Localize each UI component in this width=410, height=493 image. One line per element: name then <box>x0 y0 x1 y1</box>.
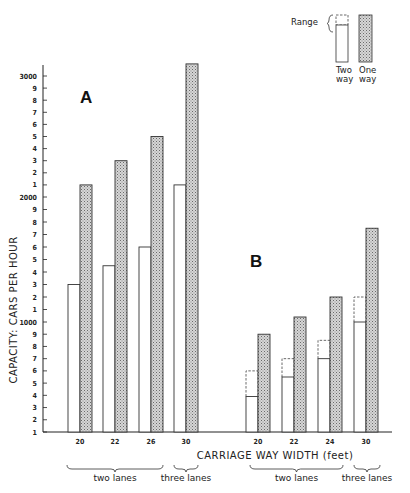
y-tick-label: 3 <box>33 404 37 412</box>
group-bracket <box>174 465 198 472</box>
y-tick-label: 5 <box>33 133 37 141</box>
bar-two-way-range <box>282 359 294 377</box>
y-tick-label: 1 <box>33 181 37 189</box>
legend-range-label: Range <box>291 17 318 27</box>
y-tick-label: 6 <box>33 244 38 252</box>
y-tick-label: 4 <box>33 145 38 153</box>
y-tick-label: 5 <box>33 380 37 388</box>
bar-two-way <box>174 185 186 432</box>
x-tick-label: 30 <box>182 438 191 446</box>
y-tick-label: 7 <box>33 355 37 363</box>
x-tick-label: 26 <box>147 438 156 446</box>
bar-one-way <box>258 334 270 432</box>
chart-panels: A20222630two lanesthree lanesB20222430tw… <box>67 64 393 483</box>
bar-one-way <box>151 137 163 433</box>
bar-two-way <box>282 377 294 432</box>
y-tick-label: 6 <box>33 121 38 129</box>
x-tick-label: 22 <box>290 438 299 446</box>
bar-one-way <box>115 161 127 432</box>
y-tick-label: 4 <box>33 392 38 400</box>
x-tick-label: 20 <box>76 438 85 446</box>
y-tick-label: 1 <box>33 429 37 437</box>
y-tick-label: 7 <box>33 109 37 117</box>
panel-b: B20222430two lanesthree lanes <box>246 228 393 483</box>
x-tick-label: 30 <box>362 438 371 446</box>
bar-two-way <box>103 266 115 432</box>
bar-one-way <box>80 185 92 432</box>
y-tick-label: 2000 <box>19 194 37 202</box>
y-tick-label: 2 <box>33 169 37 177</box>
group-label: two lanes <box>275 473 319 483</box>
bar-two-way-range <box>354 297 366 322</box>
y-tick-label: 9 <box>33 85 37 93</box>
bar-one-way <box>186 64 198 432</box>
x-axis-title: CARRIAGE WAY WIDTH (feet) <box>197 450 354 461</box>
legend: Range Two way One way <box>291 15 376 84</box>
y-tick-label: 1000 <box>19 319 37 327</box>
capacity-bar-chart: Range Two way One way 123456789100012345… <box>0 0 410 493</box>
panel-label: A <box>80 88 92 107</box>
y-tick-label: 3000 <box>19 73 37 81</box>
y-axis-title: CAPACITY: CARS PER HOUR <box>8 236 19 383</box>
bar-two-way <box>246 397 258 432</box>
x-tick-label: 24 <box>326 438 335 446</box>
legend-two-way-swatch <box>336 15 348 62</box>
y-tick-label: 2 <box>33 416 37 424</box>
x-tick-label: 20 <box>254 438 263 446</box>
y-tick-label: 8 <box>33 219 37 227</box>
y-tick-label: 9 <box>33 206 37 214</box>
x-tick-label: 22 <box>111 438 120 446</box>
panel-label: B <box>250 252 262 271</box>
y-tick-label: 5 <box>33 256 37 264</box>
legend-range-brace-icon <box>327 15 333 32</box>
bar-two-way <box>139 247 151 432</box>
y-tick-label: 3 <box>33 281 37 289</box>
bar-one-way <box>294 317 306 432</box>
y-tick-label: 3 <box>33 157 37 165</box>
y-tick-label: 6 <box>33 367 38 375</box>
y-tick-label: 8 <box>33 343 37 351</box>
bar-one-way <box>330 297 342 432</box>
bar-two-way <box>318 359 330 432</box>
group-bracket <box>67 465 163 472</box>
bar-two-way-range <box>318 340 330 358</box>
y-tick-label: 9 <box>33 331 37 339</box>
y-tick-label: 8 <box>33 97 37 105</box>
legend-one-way-swatch <box>359 15 372 62</box>
bar-two-way-range <box>246 371 258 397</box>
bar-two-way <box>354 322 366 432</box>
y-tick-label: 1 <box>33 306 37 314</box>
group-bracket <box>354 465 380 472</box>
legend-two-way-line2: way <box>336 74 353 84</box>
y-tick-label: 4 <box>33 269 38 277</box>
y-tick-label: 7 <box>33 231 37 239</box>
panel-a: A20222630two lanesthree lanes <box>67 64 212 483</box>
group-label: three lanes <box>161 473 212 483</box>
group-label: three lanes <box>342 473 393 483</box>
legend-one-way-line2: way <box>359 74 376 84</box>
y-tick-label: 2 <box>33 294 37 302</box>
bar-two-way <box>68 285 80 433</box>
group-bracket <box>250 465 343 472</box>
group-label: two lanes <box>93 473 137 483</box>
bar-one-way <box>366 228 378 432</box>
